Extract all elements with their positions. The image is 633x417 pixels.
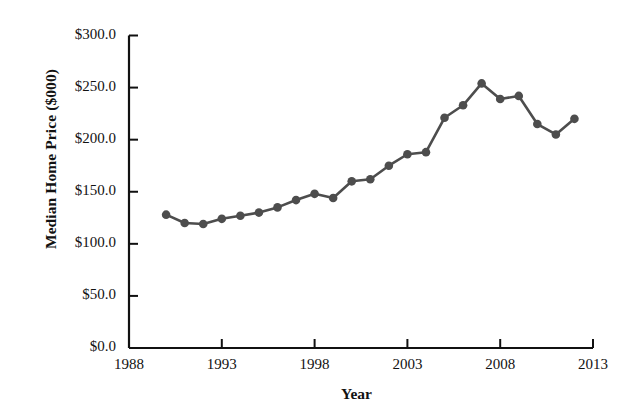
data-point-marker bbox=[459, 101, 468, 110]
data-point-marker bbox=[180, 219, 189, 228]
x-tick-label: 2003 bbox=[367, 356, 447, 373]
y-tick-label: $200.0 bbox=[36, 130, 116, 147]
y-tick-label: $50.0 bbox=[36, 286, 116, 303]
chart-figure: Median Home Price ($000) Year $0.0$50.0$… bbox=[0, 0, 633, 417]
data-point-marker bbox=[477, 79, 486, 88]
data-point-marker bbox=[255, 208, 264, 217]
data-point-marker bbox=[385, 161, 394, 170]
x-tick-label: 2008 bbox=[460, 356, 540, 373]
data-point-marker bbox=[273, 203, 282, 212]
x-tick-label: 1998 bbox=[275, 356, 355, 373]
data-point-marker bbox=[347, 177, 356, 186]
data-point-marker bbox=[366, 175, 375, 184]
data-point-marker bbox=[292, 196, 301, 205]
data-point-marker bbox=[236, 211, 245, 220]
data-point-marker bbox=[403, 150, 412, 159]
data-point-marker bbox=[218, 215, 227, 224]
y-tick-label: $100.0 bbox=[36, 234, 116, 251]
data-point-marker bbox=[533, 120, 542, 129]
y-tick-label: $0.0 bbox=[36, 338, 116, 355]
data-point-marker bbox=[514, 92, 523, 101]
series-line bbox=[166, 83, 574, 224]
x-tick-label: 2013 bbox=[553, 356, 633, 373]
data-point-marker bbox=[570, 115, 579, 124]
x-axis-title: Year bbox=[120, 385, 593, 403]
data-point-marker bbox=[199, 220, 208, 229]
data-point-marker bbox=[440, 113, 449, 122]
x-tick-label: 1988 bbox=[89, 356, 169, 373]
data-point-marker bbox=[496, 95, 505, 104]
y-tick-label: $250.0 bbox=[36, 78, 116, 95]
x-tick-label: 1993 bbox=[182, 356, 262, 373]
data-point-marker bbox=[422, 148, 431, 157]
axes bbox=[129, 36, 593, 349]
data-point-marker bbox=[552, 130, 561, 139]
y-tick-label: $300.0 bbox=[36, 26, 116, 43]
data-point-marker bbox=[329, 194, 338, 203]
data-series-median-home-price bbox=[162, 79, 579, 228]
y-tick-label: $150.0 bbox=[36, 182, 116, 199]
data-point-marker bbox=[162, 210, 171, 219]
data-point-marker bbox=[310, 190, 319, 199]
